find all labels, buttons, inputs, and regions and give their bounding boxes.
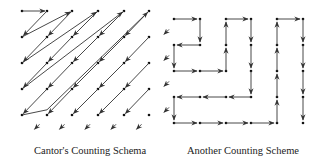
cantor-edge: [99, 63, 124, 88]
serpentine-diagram: [173, 18, 305, 125]
grid-dot: [302, 122, 305, 125]
grid-dot: [46, 114, 49, 117]
grid-dot: [71, 114, 74, 117]
continuation-arrow: [164, 81, 169, 86]
cantor-edge: [99, 37, 124, 62]
continuation-arrow: [164, 107, 169, 112]
continuation-arrow: [35, 124, 40, 129]
continuation-arrow: [111, 124, 116, 129]
cantor-edge: [99, 11, 124, 36]
cantor-edge: [22, 12, 70, 37]
continuation-arrow: [85, 124, 90, 129]
cantor-edge: [125, 63, 149, 88]
cantor-edge: [23, 63, 47, 88]
cantor-edge: [48, 11, 72, 36]
cantor-edge: [73, 89, 98, 114]
counting-diagrams: [0, 0, 321, 162]
grid-dot: [123, 114, 126, 117]
cantor-edge: [23, 11, 47, 36]
cantor-edge: [73, 11, 98, 36]
grid-dot: [97, 114, 100, 117]
cantor-edge: [48, 63, 72, 88]
continuation-arrow: [164, 55, 169, 60]
cantor-edge: [23, 37, 47, 62]
cantor-caption: Cantor's Counting Schema: [34, 145, 146, 156]
cantor-edge: [48, 89, 72, 114]
grid-dot: [148, 114, 151, 117]
cantor-edge: [125, 37, 149, 62]
continuation-arrow: [137, 124, 142, 129]
cantor-edge: [47, 12, 148, 109]
cantor-edge: [22, 12, 122, 89]
continuation-arrow: [60, 124, 65, 129]
serpentine-caption: Another Counting Scheme: [187, 145, 299, 156]
cantor-diagram: [21, 10, 169, 130]
continuation-arrow: [164, 29, 169, 34]
cantor-edge: [99, 89, 124, 114]
cantor-edge: [125, 11, 149, 36]
cantor-edge: [22, 12, 96, 63]
cantor-edge: [48, 37, 72, 62]
cantor-edge: [125, 89, 149, 114]
cantor-edge: [23, 89, 47, 114]
cantor-edge: [73, 63, 98, 88]
